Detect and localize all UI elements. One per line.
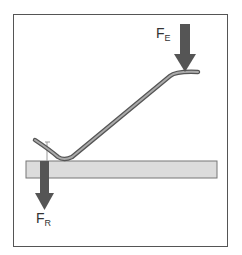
lever-bar	[35, 72, 198, 159]
effort-arrow-icon	[174, 24, 196, 72]
board	[26, 161, 217, 178]
effort-force-label: FE	[156, 25, 171, 43]
resistance-force-label: FR	[36, 210, 51, 228]
